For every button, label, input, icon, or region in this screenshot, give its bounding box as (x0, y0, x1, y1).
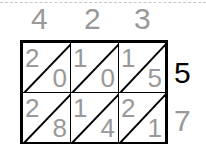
lattice-cell-highlighted: 1 5 (118, 42, 166, 93)
cell-tens: 2 (25, 95, 39, 121)
lattice-cell: 2 8 (22, 92, 71, 143)
multiplicand-digit-2: 2 (84, 4, 101, 34)
cell-tens: 2 (121, 95, 135, 121)
multiplier-digit-1: 5 (174, 58, 191, 88)
cell-ones: 5 (148, 65, 162, 91)
cell-tens: 1 (121, 45, 135, 71)
lattice-cell: 1 4 (70, 92, 119, 143)
lattice-grid: 2 0 1 0 1 5 2 8 1 4 2 1 (20, 40, 168, 144)
cell-ones: 4 (101, 115, 115, 141)
multiplicand-digit-1: 4 (31, 4, 48, 34)
cell-tens: 1 (73, 95, 87, 121)
lattice-cell: 2 0 (22, 42, 71, 93)
cell-ones: 0 (101, 65, 115, 91)
lattice-cell: 2 1 (118, 92, 166, 143)
cell-ones: 0 (53, 65, 67, 91)
lattice-cell: 1 0 (70, 42, 119, 93)
cell-ones: 1 (148, 115, 162, 141)
cell-tens: 2 (25, 45, 39, 71)
cell-tens: 1 (73, 45, 87, 71)
multiplicand-digit-3: 3 (134, 4, 151, 34)
multiplier-digit-2: 7 (174, 106, 191, 136)
cell-ones: 8 (53, 115, 67, 141)
